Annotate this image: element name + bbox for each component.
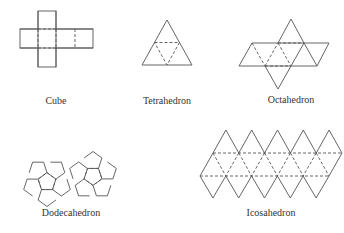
- icosahedron-fold-line: [290, 153, 303, 176]
- icosahedron-fold-line: [277, 153, 290, 176]
- cube-fold-lines: [38, 29, 75, 48]
- icosahedron-edge: [239, 130, 252, 153]
- icosahedron-edge: [303, 176, 316, 198]
- icosahedron-edge: [278, 130, 291, 153]
- icosahedron-edge: [226, 130, 239, 153]
- icosahedron-edge: [303, 130, 316, 153]
- polyhedra-nets-figure: Cube Tetrahedron Octahedron Dodecahedron…: [0, 0, 344, 233]
- cube-net: [20, 11, 93, 67]
- icosahedron-fold-line: [213, 153, 226, 176]
- icosahedron-edge: [329, 130, 342, 153]
- outer-pentagon: [47, 162, 65, 179]
- outer-pentagon: [93, 179, 111, 196]
- icosahedron-edge: [265, 176, 278, 198]
- icosahedron-edge: [200, 176, 213, 198]
- icosahedron-fold-line: [303, 153, 316, 176]
- icosahedron-edge: [290, 130, 303, 153]
- cube-vertical-strip: [38, 11, 56, 67]
- octahedron-net: [239, 19, 329, 89]
- icosahedron-fold-line: [252, 153, 265, 176]
- dodecahedron-net: [24, 152, 117, 207]
- icosahedron-fold-line: [316, 153, 329, 176]
- icosahedron-fold-line: [226, 153, 239, 176]
- icosahedron-net: [200, 130, 342, 198]
- icosahedron-edge: [213, 130, 226, 153]
- outer-pentagon: [70, 162, 88, 179]
- cube-horizontal-strip: [20, 29, 93, 48]
- icosahedron-edge: [316, 130, 329, 153]
- icosahedron-edge: [200, 153, 213, 176]
- icosahedron-edge: [213, 176, 226, 198]
- octahedron-fold-lines: [252, 43, 304, 66]
- outer-pentagon: [75, 179, 93, 196]
- icosahedron-edge: [329, 153, 342, 176]
- icosahedron-label: Icosahedron: [247, 207, 296, 218]
- icosahedron-edge: [290, 176, 303, 198]
- icosahedron-edge: [252, 130, 265, 153]
- icosahedron-fold-line: [239, 153, 252, 176]
- icosahedron-edge: [265, 130, 278, 153]
- outer-pentagon: [29, 162, 47, 179]
- icosahedron-edge: [316, 176, 329, 198]
- icosahedron-edge: [239, 176, 252, 198]
- octahedron-label: Octahedron: [268, 94, 315, 105]
- tetrahedron-label: Tetrahedron: [143, 95, 191, 106]
- dodecahedron-left-cluster: [24, 162, 71, 206]
- outer-pentagon: [24, 179, 42, 196]
- outer-pentagon: [38, 190, 56, 207]
- icosahedron-edge: [252, 176, 265, 198]
- dodecahedron-label: Dodecahedron: [42, 207, 100, 218]
- dodecahedron-right-cluster: [70, 152, 117, 196]
- cube-label: Cube: [45, 95, 67, 106]
- outer-pentagon: [84, 152, 102, 169]
- tetrahedron-net: [142, 20, 192, 65]
- icosahedron-edge: [277, 176, 290, 198]
- outer-pentagon: [53, 179, 71, 196]
- icosahedron-fold-line: [265, 153, 278, 176]
- icosahedron-edge: [226, 176, 239, 198]
- outer-pentagon: [99, 162, 117, 179]
